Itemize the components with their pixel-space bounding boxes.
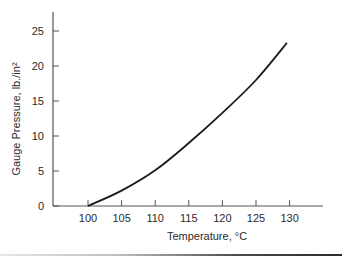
x-tick-label: 115: [180, 212, 198, 224]
y-tick-label: 20: [32, 60, 44, 72]
x-tick-label: 105: [112, 212, 130, 224]
bottom-rule: [0, 254, 342, 256]
x-tick-label: 130: [280, 212, 298, 224]
x-tick-label: 110: [146, 212, 164, 224]
x-ticks: 100105110115120125130: [79, 200, 299, 224]
x-axis-title: Temperature, °C: [167, 230, 247, 242]
y-tick-label: 15: [32, 95, 44, 107]
y-tick-label: 25: [32, 25, 44, 37]
x-tick-label: 125: [247, 212, 265, 224]
x-tick-label: 120: [213, 212, 231, 224]
chart: 0510152025 100105110115120125130 Tempera…: [0, 0, 342, 257]
y-tick-label: 10: [32, 130, 44, 142]
x-tick-label: 100: [79, 212, 97, 224]
y-ticks: 0510152025: [32, 25, 59, 212]
y-axis-title: Gauge Pressure, lb./in²: [10, 62, 22, 175]
pressure-curve: [88, 43, 287, 206]
y-tick-label: 5: [38, 165, 44, 177]
y-tick-label: 0: [38, 200, 44, 212]
